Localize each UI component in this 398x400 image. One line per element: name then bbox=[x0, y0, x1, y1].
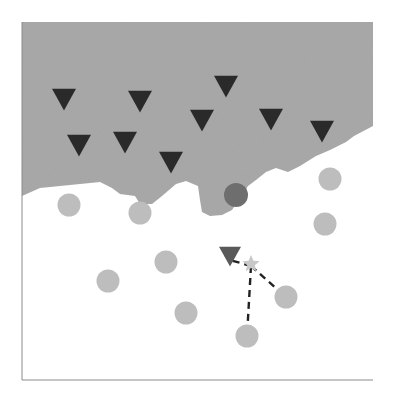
knn-diagram bbox=[0, 0, 398, 400]
circle-point bbox=[155, 251, 178, 274]
circle-point bbox=[319, 168, 342, 191]
circle-point bbox=[97, 270, 120, 293]
misclassified-circle bbox=[224, 183, 248, 207]
circle-point bbox=[275, 286, 298, 309]
circle-point bbox=[314, 213, 337, 236]
circle-point bbox=[58, 194, 81, 217]
circle-point bbox=[129, 202, 152, 225]
nearest-triangle bbox=[219, 247, 241, 267]
circle-point bbox=[236, 325, 259, 348]
circle-point bbox=[175, 302, 198, 325]
